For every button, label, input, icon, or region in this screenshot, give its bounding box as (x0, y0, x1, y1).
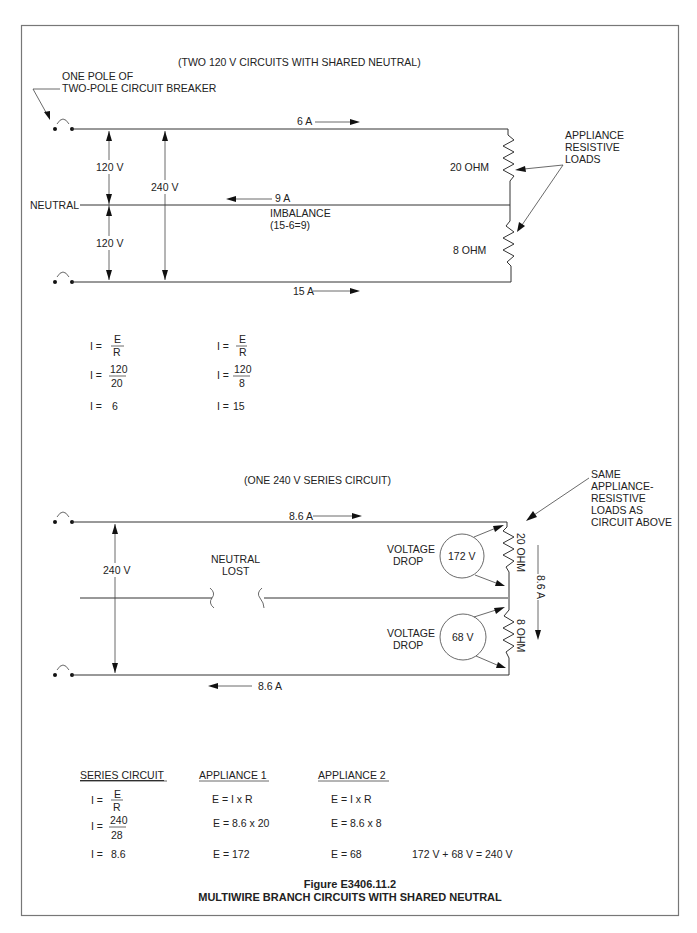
svg-text:RESISTIVE: RESISTIVE (565, 141, 620, 153)
series-load-upper: 20 OHM (515, 533, 527, 572)
current-bottom: 15 A (293, 285, 314, 297)
neutral-label: NEUTRAL (30, 199, 79, 211)
series-current-side: 8.6 A (535, 575, 547, 599)
current-top: 6 A (297, 115, 312, 127)
figure-number: Figure E3406.11.2 (304, 878, 396, 890)
svg-text:8: 8 (239, 377, 245, 389)
top-circuit-heading: (TWO 120 V CIRCUITS WITH SHARED NEUTRAL) (178, 56, 421, 68)
svg-text:R: R (113, 801, 121, 813)
svg-text:120: 120 (234, 363, 252, 375)
figure-title: MULTIWIRE BRANCH CIRCUITS WITH SHARED NE… (198, 891, 502, 903)
svg-text:E = I x R: E = I x R (212, 793, 253, 805)
svg-text:I =: I = (90, 400, 102, 412)
voltage-total: 240 V (151, 181, 178, 193)
current-neutral: 9 A (275, 192, 290, 204)
svg-text:E = 8.6 x 20: E = 8.6 x 20 (213, 817, 269, 829)
load-upper-label: 20 OHM (450, 161, 489, 173)
svg-text:6: 6 (112, 400, 118, 412)
svg-text:I =: I = (217, 340, 229, 352)
series-resistor-8-ohm (503, 598, 514, 675)
voltage-lower: 120 V (96, 237, 123, 249)
svg-text:E: E (114, 788, 121, 800)
voltage-drop-lower: VOLTAGE DROP 68 V (387, 607, 506, 668)
svg-text:120: 120 (110, 363, 128, 375)
svg-text:TWO-POLE CIRCUIT BREAKER: TWO-POLE CIRCUIT BREAKER (62, 82, 217, 94)
svg-text:VOLTAGE: VOLTAGE (387, 627, 435, 639)
series-resistor-20-ohm (503, 522, 514, 598)
breaker-pole-top-2 (53, 512, 74, 524)
svg-text:E = 68: E = 68 (331, 848, 362, 860)
voltage-upper: 120 V (96, 161, 123, 173)
svg-text:240: 240 (110, 814, 128, 826)
neutral-lost-label-2: LOST (222, 565, 250, 577)
appliance-1-equations: APPLIANCE 1 E = I x R E = 8.6 x 20 E = 1… (199, 769, 269, 860)
svg-text:I =: I = (91, 794, 103, 806)
neutral-lost-label-1: NEUTRAL (211, 553, 260, 565)
svg-text:R: R (113, 346, 121, 358)
svg-text:15: 15 (233, 400, 245, 412)
svg-text:APPLIANCE-: APPLIANCE- (591, 480, 654, 492)
top-equations-left: I = E R I = 120 20 I = 6 (90, 333, 128, 412)
breaker-pole-bottom-2 (53, 665, 74, 677)
svg-text:I =: I = (217, 369, 229, 381)
svg-text:APPLIANCE 2: APPLIANCE 2 (318, 769, 386, 781)
svg-text:SERIES CIRCUIT: SERIES CIRCUIT (80, 769, 165, 781)
breaker-pole-bottom (53, 272, 74, 284)
svg-text:I =: I = (90, 340, 102, 352)
svg-text:LOADS: LOADS (565, 153, 601, 165)
same-loads-callout: SAME APPLIANCE- RESISTIVE LOADS AS CIRCU… (526, 468, 672, 528)
resistor-8-ohm (503, 205, 514, 282)
series-current-bottom: 8.6 A (258, 680, 282, 692)
loads-callout: APPLIANCE RESISTIVE LOADS (515, 129, 624, 232)
svg-text:I =: I = (90, 369, 102, 381)
svg-text:SAME: SAME (591, 468, 621, 480)
svg-text:E: E (114, 333, 121, 345)
imbalance-calc: (15-6=9) (270, 219, 310, 231)
resistor-20-ohm (503, 129, 514, 205)
multiwire-circuit-diagram: (TWO 120 V CIRCUITS WITH SHARED NEUTRAL)… (0, 0, 697, 933)
svg-text:E = 172: E = 172 (213, 848, 250, 860)
series-voltage-total: 240 V (103, 564, 130, 576)
svg-text:68 V: 68 V (452, 631, 474, 643)
series-current-top: 8.6 A (289, 510, 313, 522)
appliance-2-equations: APPLIANCE 2 E = I x R E = 8.6 x 8 E = 68 (318, 769, 389, 860)
svg-text:28: 28 (111, 829, 123, 841)
load-lower-label: 8 OHM (453, 244, 486, 256)
svg-text:CIRCUIT ABOVE: CIRCUIT ABOVE (591, 516, 672, 528)
svg-text:I =: I = (91, 820, 103, 832)
svg-text:DROP: DROP (393, 639, 423, 651)
svg-text:ONE POLE OF: ONE POLE OF (62, 70, 133, 82)
svg-text:VOLTAGE: VOLTAGE (387, 543, 435, 555)
imbalance-label: IMBALANCE (270, 207, 331, 219)
svg-text:I =: I = (91, 848, 103, 860)
svg-text:RESISTIVE: RESISTIVE (591, 492, 646, 504)
bottom-circuit-heading: (ONE 240 V SERIES CIRCUIT) (244, 474, 391, 486)
series-load-lower: 8 OHM (515, 619, 527, 652)
voltage-sum: 172 V + 68 V = 240 V (412, 848, 512, 860)
svg-text:R: R (239, 346, 247, 358)
breaker-callout: ONE POLE OF TWO-POLE CIRCUIT BREAKER (33, 70, 217, 120)
breaker-pole-top (53, 119, 74, 131)
svg-text:I =: I = (217, 400, 229, 412)
svg-text:20: 20 (111, 377, 123, 389)
top-equations-right: I = E R I = 120 8 I = 15 (217, 333, 252, 412)
svg-text:E = 8.6 x 8: E = 8.6 x 8 (331, 817, 382, 829)
svg-text:APPLIANCE 1: APPLIANCE 1 (199, 769, 267, 781)
voltage-drop-upper: VOLTAGE DROP 172 V (387, 525, 505, 586)
svg-text:172 V: 172 V (448, 550, 475, 562)
svg-text:E = I x R: E = I x R (331, 793, 372, 805)
svg-text:APPLIANCE: APPLIANCE (565, 129, 624, 141)
svg-text:E: E (239, 333, 246, 345)
series-circuit-equations: SERIES CIRCUIT I = E R I = 240 28 I = 8.… (80, 769, 167, 860)
svg-text:LOADS AS: LOADS AS (591, 504, 643, 516)
svg-text:8.6: 8.6 (111, 848, 126, 860)
svg-text:DROP: DROP (393, 555, 423, 567)
